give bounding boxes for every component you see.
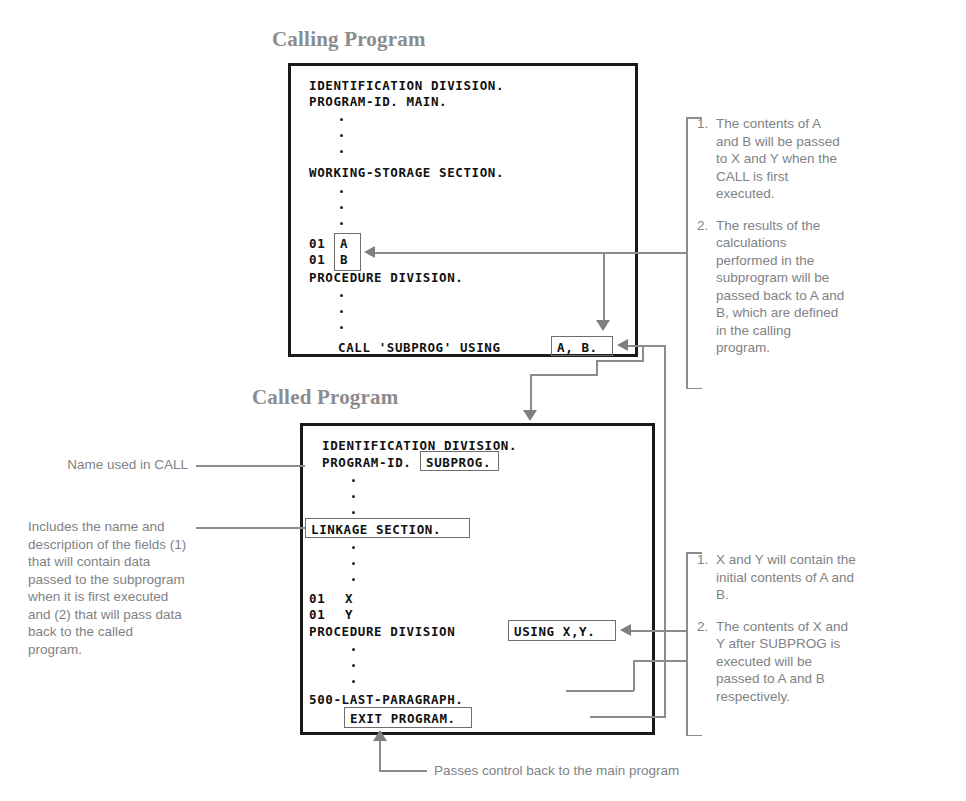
arrowhead-into-called-program <box>523 410 537 421</box>
note-passes-control: Passes control back to the main program <box>434 762 834 780</box>
connector-call-to-subprogram-h2 <box>530 374 598 376</box>
ellipsis-dot <box>340 190 343 193</box>
connector-return-horizontal-top <box>628 345 666 347</box>
connector-bracket-called-stem <box>664 630 686 632</box>
note-item: 2. The results of the calculations perfo… <box>697 217 845 357</box>
ellipsis-dot <box>340 310 343 313</box>
ellipsis-dot <box>352 648 355 651</box>
called-variable-y: Y <box>345 608 353 622</box>
called-level-number-x: 01 <box>309 592 325 606</box>
ellipsis-dot <box>352 578 355 581</box>
connector-exit-to-note-horizontal <box>566 690 634 692</box>
connector-return-horizontal-bottom <box>590 716 666 718</box>
called-line-linkage-section: LINKAGE SECTION. <box>311 523 441 537</box>
notes-called-program: 1. X and Y will contain the initial cont… <box>697 551 857 719</box>
connector-passes-control-vertical <box>379 741 381 771</box>
note-text: The results of the calculations performe… <box>716 218 844 356</box>
connector-linkage-description <box>196 527 305 529</box>
arrowhead-into-ab-fields <box>364 246 375 258</box>
ellipsis-dot <box>340 222 343 225</box>
called-line-procedure-division: PROCEDURE DIVISION <box>309 625 455 639</box>
bracket-called-notes <box>672 552 688 736</box>
ellipsis-dot <box>340 326 343 329</box>
notes-calling-program: 1. The contents of A and B will be passe… <box>697 115 845 371</box>
connector-bracket-calling-stem <box>664 252 686 254</box>
note-number: 1. <box>697 115 708 133</box>
called-exit-program: EXIT PROGRAM. <box>350 712 456 726</box>
ellipsis-dot <box>352 664 355 667</box>
called-program-title: Called Program <box>252 385 398 410</box>
ellipsis-dot <box>352 511 355 514</box>
calling-line-program-id: PROGRAM-ID. MAIN. <box>309 95 447 109</box>
calling-call-arguments: A, B. <box>557 341 598 355</box>
connector-call-to-subprogram-v0 <box>642 345 644 361</box>
calling-call-statement: CALL 'SUBPROG' USING <box>338 341 501 355</box>
diagram-canvas: Calling Program Called Program IDENTIFIC… <box>0 0 966 801</box>
called-program-id-value: SUBPROG. <box>426 456 491 470</box>
called-last-paragraph: 500-LAST-PARAGRAPH. <box>309 693 463 707</box>
called-level-number-y: 01 <box>309 608 325 622</box>
arrowhead-into-using-clause <box>620 624 631 636</box>
calling-level-number-a: 01 <box>309 237 325 251</box>
called-using-clause: USING X,Y. <box>514 625 595 639</box>
note-text: The contents of X and Y after SUBPROG is… <box>716 619 848 704</box>
connector-call-to-subprogram-v2 <box>530 374 532 410</box>
note-item: 2. The contents of X and Y after SUBPROG… <box>697 618 857 706</box>
note-item: 1. X and Y will contain the initial cont… <box>697 551 857 604</box>
note-number: 2. <box>697 618 708 636</box>
calling-variable-b: B <box>340 253 348 267</box>
ellipsis-dot <box>340 134 343 137</box>
note-name-used-in-call: Name used in CALL <box>40 456 188 474</box>
ellipsis-dot <box>352 479 355 482</box>
connector-exit-to-note-vertical <box>633 660 635 691</box>
ellipsis-dot <box>340 118 343 121</box>
called-variable-x: X <box>345 592 353 606</box>
ellipsis-dot <box>352 680 355 683</box>
connector-call-to-subprogram-h1 <box>596 360 644 362</box>
calling-variable-a: A <box>340 237 348 251</box>
connector-note1-vertical <box>603 252 605 322</box>
calling-line-working-storage: WORKING-STORAGE SECTION. <box>309 166 504 180</box>
note-item: 1. The contents of A and B will be passe… <box>697 115 845 203</box>
called-line-program-id-label: PROGRAM-ID. <box>322 456 411 470</box>
connector-call-to-subprogram-v1 <box>596 360 598 375</box>
arrowhead-return-into-call-args <box>617 339 628 351</box>
ellipsis-dot <box>340 150 343 153</box>
ellipsis-dot <box>352 562 355 565</box>
ellipsis-dot <box>352 546 355 549</box>
note-number: 2. <box>697 217 708 235</box>
calling-program-title: Calling Program <box>272 27 426 52</box>
note-text: The contents of A and B will be passed t… <box>716 116 840 201</box>
connector-passes-control-horizontal <box>379 770 427 772</box>
calling-line-procedure-division: PROCEDURE DIVISION. <box>309 271 463 285</box>
connector-note2-to-ab-horizontal <box>375 252 603 254</box>
arrowhead-into-call-args <box>596 320 610 331</box>
calling-level-number-b: 01 <box>309 253 325 267</box>
connector-name-used-in-call <box>196 465 305 467</box>
note-number: 1. <box>697 551 708 569</box>
ellipsis-dot <box>340 206 343 209</box>
arrowhead-into-exit-program <box>373 730 387 741</box>
note-linkage-description: Includes the name and description of the… <box>28 518 188 658</box>
note-text: X and Y will contain the initial content… <box>716 552 856 602</box>
calling-line-identification-division: IDENTIFICATION DIVISION. <box>309 79 504 93</box>
ellipsis-dot <box>352 495 355 498</box>
ellipsis-dot <box>340 294 343 297</box>
